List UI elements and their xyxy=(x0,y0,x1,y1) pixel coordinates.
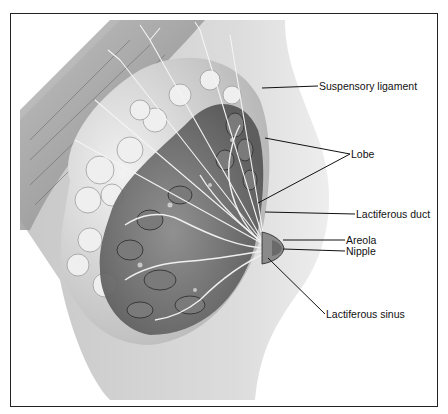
label-areola: Areola xyxy=(346,235,376,246)
label-nipple: Nipple xyxy=(346,246,376,257)
label-lobe: Lobe xyxy=(351,149,374,160)
label-lactiferous-sinus: Lactiferous sinus xyxy=(326,309,405,320)
label-suspensory-ligament: Suspensory ligament xyxy=(319,81,417,92)
breast-anatomy-illustration xyxy=(0,0,448,414)
label-lactiferous-duct: Lactiferous duct xyxy=(356,209,430,220)
